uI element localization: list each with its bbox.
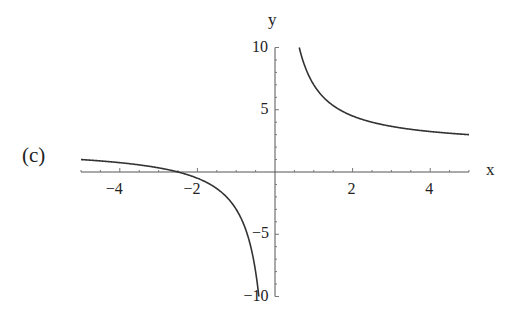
y-axis-label: y (268, 10, 277, 30)
x-axis-label: x (486, 160, 495, 180)
y-tick-label: −5 (252, 224, 269, 242)
x-tick-label: 2 (348, 180, 356, 198)
y-tick-label: 10 (252, 38, 268, 56)
curve-right-branch (299, 48, 469, 135)
y-tick-label: 5 (261, 100, 269, 118)
x-tick-label: 4 (425, 180, 433, 198)
x-tick-label: −4 (106, 180, 123, 198)
x-tick-label: −2 (183, 180, 200, 198)
panel-label: (c) (22, 143, 45, 168)
y-tick-label: −10 (244, 287, 269, 305)
